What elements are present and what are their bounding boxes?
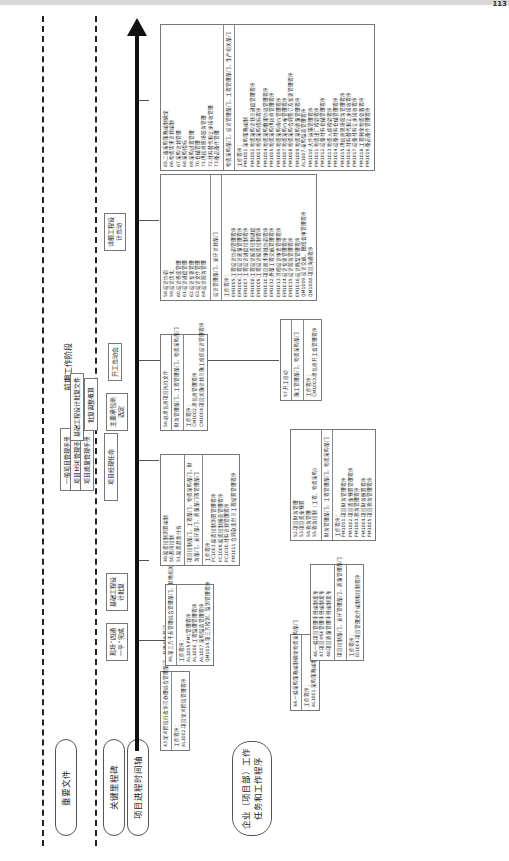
responsible-depts: 项目控制部门，工程部门，物资采购部门，财务部门，安环部门，质量部门等管理部门 bbox=[187, 458, 200, 562]
procedure-item: QM1008.项目沟通程序 bbox=[308, 178, 314, 297]
procedure-item: PM1005.项目税务管理程序 bbox=[367, 433, 373, 537]
task-box-43: 43.定义阶段行政许可办理综合管理部门，其他相关部门 工作程序：AL1002.项… bbox=[160, 671, 190, 751]
lane-label: 项目进程时间轴 bbox=[132, 756, 144, 819]
task-box-46: 46.一般项目管理手册编制发布 47.项目HSE管理手册编制发布 48.项目质量… bbox=[310, 564, 364, 661]
responsible-depts: 设计管理部门，安环计划部门 bbox=[213, 178, 219, 297]
task-box-49: 49.投资控制测算编制 50.费用控制 51.投资趋势分析 项目控制部门，工程部… bbox=[160, 454, 240, 566]
lane-divider-1 bbox=[42, 16, 44, 846]
connector bbox=[139, 560, 149, 561]
milestone-site-ready: 现场“四通一平”完成 bbox=[106, 623, 128, 661]
milestone-contractor-selected: 主要承包商选定 bbox=[106, 393, 128, 431]
milestone-basic-design-approval: 基础工程设计批复 bbox=[106, 573, 128, 611]
responsible-depts: 财务管理部门，工程管理部门，物资采购部门 bbox=[324, 433, 330, 537]
task-box-58: 58.设计协调 59.设计优化 60.设计界面管理 61.设计进度管理 62.设… bbox=[160, 174, 317, 301]
connector bbox=[139, 460, 159, 461]
lane-tasks-procedures: 企业（项目部）工作任务和工作程序 bbox=[232, 741, 272, 836]
task-item: 73.备品备件管理 bbox=[214, 28, 220, 167]
procedure-item: PM1019.备品备件管理程序 bbox=[365, 28, 371, 167]
task-item: 45.第三方干系管理综合管理部门，其他相关部门 bbox=[168, 588, 174, 662]
connector bbox=[139, 100, 149, 101]
task-item: 51.投资趋势分析 bbox=[176, 458, 182, 562]
procedure-item: CM1003.承包商开工会管理程序 bbox=[312, 323, 318, 397]
task-item: 57.开工启动 bbox=[283, 323, 289, 397]
lane-label: 关键里程碑 bbox=[108, 765, 120, 810]
milestone-detailed-design: 详细工程设计启动 bbox=[104, 213, 126, 251]
lane-label: 企业（项目部）工作任务和工作程序 bbox=[240, 748, 264, 829]
timeline-axis bbox=[135, 31, 139, 751]
task-item: 48.项目质量管理手册编制发布 bbox=[326, 568, 332, 657]
responsible-depts: 物资采购部门，设计管理部门，工程管理部门，生产相关部门 bbox=[226, 28, 232, 167]
task-box-56: 56.总承包商项目执行文件 财务管理部门，工程管理部门，物资采购部门 工作程序：… bbox=[160, 334, 208, 431]
task-item: 43.定义阶段行政许可办理综合管理部门，其他相关部门 bbox=[163, 675, 169, 747]
milestone-pm-appointed: 项目经理任命 bbox=[104, 433, 118, 501]
timeline-arrow-icon bbox=[127, 18, 147, 36]
doc-adjusted-estimate: 批复调整概算 bbox=[84, 378, 98, 431]
doc-basic-design-approval: 基础工程设计批复文件 bbox=[70, 373, 84, 441]
task-box-52: 52.项目财务管理 53.项目资金预算 54.税务管理 55.税务控制（工程、物… bbox=[290, 429, 376, 541]
connector bbox=[139, 220, 159, 221]
milestone-kickoff: 开工启动会 bbox=[108, 343, 122, 381]
task-item: 44.一般采购策略编制确定物资采购部门 bbox=[293, 638, 299, 707]
responsible-depts: 项目控制部门，安环管理部门，质量管理部门 bbox=[337, 568, 343, 657]
procedure-item: PM1011.合同款支付与工程结算管理程序 bbox=[231, 458, 237, 562]
task-box-57: 57.开工启动 施工管理部门，物资采购部门 工作程序： CM1003.承包商开工… bbox=[280, 319, 322, 401]
lane-label: 重要文件 bbox=[60, 770, 72, 806]
procedure-item: CM1004.项目实施计划与施工组织设计管理程序 bbox=[199, 338, 205, 427]
lane-timeline: 项目进程时间轴 bbox=[127, 739, 149, 836]
project-timeline-diagram: 重要文件 关键里程碑 项目进程时间轴 企业（项目部）工作任务和工作程序 前期工作… bbox=[0, 0, 509, 861]
task-item: 64.设计服务管理 bbox=[201, 178, 207, 297]
lane-important-documents: 重要文件 bbox=[55, 739, 77, 836]
procedure-item: QM1014.第三方检测、监测管理程序 bbox=[205, 588, 211, 662]
task-box-45: 45.第三方干系管理综合管理部门，其他相关部门 工作程序： AL1005.PMC… bbox=[165, 584, 214, 666]
responsible-depts: 施工管理部门，物资采购部门 bbox=[294, 323, 300, 397]
lane-key-milestones: 关键里程碑 bbox=[103, 739, 125, 836]
task-box-65: 65.二级采购策略编制确定 66.物资需求计划编制 67.采购计划管理 68.采… bbox=[160, 24, 375, 171]
task-item: 55.税务控制（工程、物资采购） bbox=[312, 433, 318, 537]
procedure-item: AL1002.项目定义阶段管理程序 bbox=[181, 675, 187, 747]
lane-divider-2 bbox=[95, 16, 97, 846]
responsible-depts: 财务管理部门，工程管理部门，物资采购部门 bbox=[174, 338, 180, 427]
task-item: 56.总承包商项目执行文件 bbox=[163, 338, 169, 427]
procedure-item: ID1004.项目管理文件编制和控制程序 bbox=[355, 568, 361, 657]
